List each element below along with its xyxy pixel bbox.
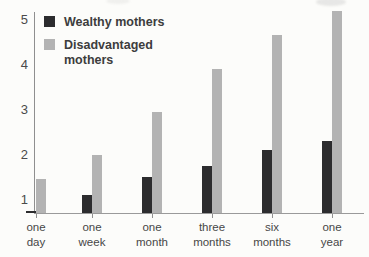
x-tick-one-day: [36, 214, 37, 218]
bar-disadvantaged-mothers-six-months: [272, 35, 282, 213]
x-tick-one-month: [152, 214, 153, 218]
x-tick-three-months: [212, 214, 213, 218]
bar-wealthy-mothers-one-week: [82, 195, 92, 213]
scan-artifact: [316, 0, 346, 6]
x-tick-six-months: [272, 214, 273, 218]
legend: Wealthy mothers Disadvantaged mothers: [44, 15, 165, 76]
y-tick-label-3: 3: [0, 101, 28, 119]
bar-disadvantaged-mothers-one-day: [36, 179, 46, 213]
bar-wealthy-mothers-one-day: [26, 211, 36, 213]
y-tick-label-4: 4: [0, 56, 28, 74]
bar-wealthy-mothers-one-year: [322, 141, 332, 213]
legend-item-wealthy-mothers: Wealthy mothers: [44, 15, 165, 31]
y-tick-label-2: 2: [0, 146, 28, 164]
x-category-label-one-year: one year: [297, 220, 367, 249]
legend-label-disadvantaged-mothers: Disadvantaged mothers: [64, 38, 164, 69]
y-axis-line: [34, 12, 35, 213]
wealthy-mothers-swatch-icon: [44, 16, 55, 27]
legend-label-wealthy-mothers: Wealthy mothers: [64, 15, 165, 31]
x-axis-line: [34, 213, 364, 214]
bar-disadvantaged-mothers-one-year: [332, 11, 342, 214]
scan-artifact: [106, 0, 130, 4]
x-tick-one-week: [92, 214, 93, 218]
bar-disadvantaged-mothers-one-week: [92, 155, 102, 214]
legend-item-disadvantaged-mothers: Disadvantaged mothers: [44, 38, 165, 69]
bar-wealthy-mothers-three-months: [202, 166, 212, 213]
bar-wealthy-mothers-six-months: [262, 150, 272, 213]
y-tick-label-1: 1: [0, 191, 28, 209]
bar-disadvantaged-mothers-one-month: [152, 112, 162, 213]
x-tick-one-year: [332, 214, 333, 218]
bar-wealthy-mothers-one-month: [142, 177, 152, 213]
y-tick-label-5: 5: [0, 11, 28, 29]
scanned-bar-chart: Wealthy mothers Disadvantaged mothers 12…: [0, 0, 369, 257]
plot-area: Wealthy mothers Disadvantaged mothers 12…: [0, 0, 369, 257]
bar-disadvantaged-mothers-three-months: [212, 69, 222, 213]
disadvantaged-mothers-swatch-icon: [44, 39, 55, 50]
